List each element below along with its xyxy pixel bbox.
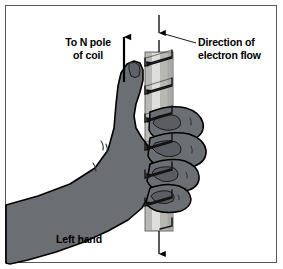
fingers-group: [146, 107, 206, 213]
figure-container: To N pole of coil Direction of electron …: [0, 0, 283, 269]
label-left-hand: Left hand: [56, 233, 136, 246]
label-to-n-pole-of-coil: To N pole of coil: [57, 36, 119, 61]
leader-line-icon: [161, 33, 196, 43]
label-direction-of-electron-flow: Direction of electron flow: [198, 36, 280, 61]
